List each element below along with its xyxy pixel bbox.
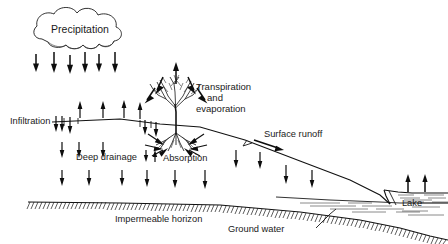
slope-infiltration-arrow-group bbox=[234, 150, 315, 188]
arrow-up-icon bbox=[173, 62, 179, 84]
arrow-down-icon bbox=[120, 170, 125, 186]
absorption-label: Absorption bbox=[163, 153, 207, 163]
impermeable-horizon bbox=[27, 202, 448, 244]
arrow-down-icon bbox=[68, 117, 73, 134]
arrow-down-icon bbox=[33, 54, 39, 72]
ground-water-label: Ground water bbox=[228, 224, 284, 234]
arrow-up-icon bbox=[153, 150, 157, 162]
arrow-down-icon bbox=[284, 165, 289, 184]
arrow-down-icon bbox=[203, 170, 208, 189]
arrow-down-icon bbox=[310, 170, 315, 188]
arrow-down-icon bbox=[67, 55, 73, 74]
surface-runoff-label: Surface runoff bbox=[264, 129, 323, 139]
arrow-up-icon bbox=[101, 101, 106, 118]
arrow-down-icon bbox=[60, 170, 65, 186]
hatch-pattern-icon bbox=[27, 202, 446, 244]
water-hatch-lines bbox=[300, 200, 448, 215]
diagram-canvas: Precipitation bbox=[0, 0, 448, 244]
tree-icon bbox=[150, 75, 200, 133]
precipitation-label: Precipitation bbox=[51, 23, 109, 35]
arrow-up-icon bbox=[138, 102, 143, 119]
arrow-down-icon bbox=[234, 150, 239, 168]
arrow-up-icon bbox=[405, 174, 410, 192]
arrow-down-icon bbox=[173, 170, 178, 188]
arrow-down-icon bbox=[144, 150, 148, 162]
arrow-down-icon bbox=[258, 152, 263, 169]
ground-evaporation-arrow-group bbox=[78, 100, 143, 119]
arrow-down-icon bbox=[145, 170, 150, 187]
absorption-updown-pair bbox=[144, 150, 157, 162]
arrow-down-icon bbox=[54, 116, 59, 132]
transpiration-label-line2: and bbox=[207, 92, 223, 103]
surface-notch bbox=[64, 118, 78, 126]
arrow-down-icon bbox=[60, 142, 65, 158]
arrow-down-icon bbox=[112, 52, 118, 73]
deep-drainage-label: Deep drainage bbox=[76, 152, 137, 162]
transpiration-label-line3: evaporation bbox=[196, 103, 246, 114]
water-cycle-diagram: Precipitation bbox=[0, 0, 448, 244]
transpiration-label-line1: Transpiration bbox=[196, 81, 251, 92]
precipitation-arrow-group bbox=[33, 52, 118, 74]
arrow-down-icon bbox=[87, 170, 92, 186]
arrow-up-icon bbox=[145, 88, 156, 104]
arrow-down-icon bbox=[96, 54, 102, 72]
impermeable-horizon-label: Impermeable horizon bbox=[115, 214, 202, 224]
lake-label: Lake bbox=[402, 198, 422, 208]
arrow-up-icon bbox=[122, 100, 127, 118]
lake-evaporation-arrow-group bbox=[405, 174, 427, 192]
infiltration-label: Infiltration bbox=[10, 116, 50, 126]
arrow-inward-icon bbox=[188, 134, 204, 145]
arrow-up-icon bbox=[422, 174, 427, 192]
arrow-down-icon bbox=[51, 52, 57, 73]
arrow-down-icon bbox=[82, 52, 88, 73]
roots-icon bbox=[156, 133, 196, 151]
arrow-up-icon bbox=[155, 77, 164, 95]
arrow-up-icon bbox=[78, 101, 83, 118]
